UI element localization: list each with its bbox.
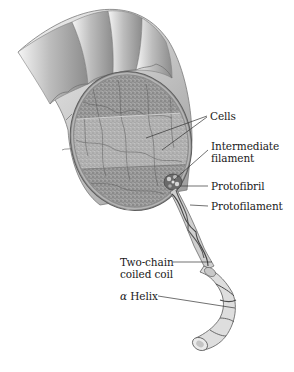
label-intermediate-filament-line1: Intermediate xyxy=(211,140,279,152)
filament-tube xyxy=(170,188,214,270)
label-coiled-coil-line2: coiled coil xyxy=(120,268,173,280)
hair-structure-diagram: Cells Intermediate filament Protofibril … xyxy=(0,0,294,372)
protofibril-cluster xyxy=(164,174,182,190)
label-protofibril: Protofibril xyxy=(211,180,265,192)
helix-text: Helix xyxy=(130,290,158,302)
label-alpha-helix: α Helix xyxy=(120,290,158,302)
label-coiled-coil-line1: Two-chain xyxy=(120,256,174,268)
alpha-symbol: α xyxy=(120,290,127,302)
label-protofilament: Protofilament xyxy=(211,200,283,212)
alpha-helix-tube xyxy=(190,266,236,354)
label-cells: Cells xyxy=(210,110,236,122)
leader-protofilament xyxy=(190,205,208,206)
label-intermediate-filament-line2: filament xyxy=(211,152,254,164)
